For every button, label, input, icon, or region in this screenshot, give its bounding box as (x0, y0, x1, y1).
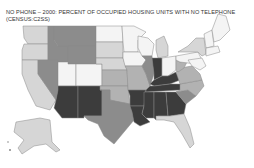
state-me (212, 14, 230, 42)
state-wi (138, 36, 154, 56)
state-fl (156, 114, 194, 148)
state-mi (156, 36, 168, 58)
state-mt (54, 26, 96, 46)
us-choropleth-map (0, 0, 254, 168)
state-wa (23, 26, 48, 44)
state-or (22, 44, 48, 60)
state-sd (96, 42, 123, 58)
state-ks (102, 70, 128, 86)
state-az (54, 86, 78, 118)
state-nd (96, 26, 123, 42)
state-ar (128, 90, 146, 106)
state-ut (58, 62, 76, 86)
state-ak (14, 118, 60, 154)
state-wy (68, 46, 96, 64)
state-co (76, 64, 102, 86)
state-hi-2 (9, 149, 11, 151)
state-nm (78, 86, 102, 118)
state-ms (142, 92, 154, 118)
state-hi (7, 141, 9, 143)
state-ma-ct-ri (206, 46, 220, 56)
